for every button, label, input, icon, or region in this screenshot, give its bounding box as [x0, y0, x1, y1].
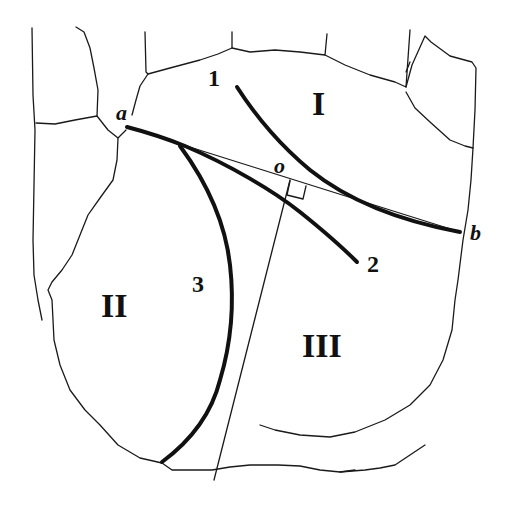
finger-base-middle-ring	[232, 34, 327, 55]
palm-outline-left-edge	[32, 28, 42, 320]
perpendicular-line	[214, 180, 290, 480]
point-label-o: o	[274, 153, 285, 178]
palm-line-3	[162, 146, 232, 462]
region-label-3: III	[302, 327, 342, 364]
palm-line-1	[237, 87, 460, 232]
palm-outline-right-edge	[260, 148, 473, 437]
line-label-2: 2	[367, 251, 379, 277]
point-label-a: a	[116, 100, 127, 125]
point-label-b: b	[470, 220, 481, 245]
finger-outline-index	[132, 32, 148, 115]
palm-outline-bottom-right	[340, 445, 425, 472]
palm-outline-bottom	[162, 463, 355, 472]
right-angle-marker	[287, 181, 306, 199]
finger-outline-thumb	[76, 27, 98, 116]
palm-line-2	[127, 127, 357, 262]
crease-left-horizontal	[36, 116, 126, 138]
region-label-2: II	[101, 287, 127, 324]
line-label-3: 3	[192, 271, 204, 297]
finger-outline-little	[406, 36, 476, 148]
finger-base-ring-little	[325, 30, 410, 87]
region-label-1: I	[312, 85, 325, 122]
line-label-1: 1	[208, 65, 220, 91]
palm-diagram: a b o 1 2 3 I II III	[0, 0, 509, 508]
